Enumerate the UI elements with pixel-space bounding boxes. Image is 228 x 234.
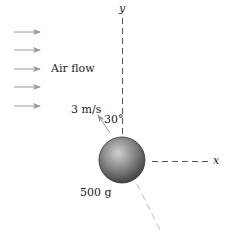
mass-label: 500 g — [80, 187, 112, 198]
sphere — [99, 137, 145, 183]
air-flow-arrows — [14, 32, 40, 106]
velocity-label: 3 m/s — [71, 104, 101, 115]
diagram-canvas: y x Air flow 3 m/s 30° 500 g — [0, 0, 228, 234]
angle-label: 30° — [104, 114, 124, 125]
y-axis-label: y — [119, 3, 125, 14]
trajectory-line — [137, 184, 161, 232]
air-flow-label: Air flow — [51, 63, 95, 74]
x-axis-label: x — [213, 155, 219, 166]
